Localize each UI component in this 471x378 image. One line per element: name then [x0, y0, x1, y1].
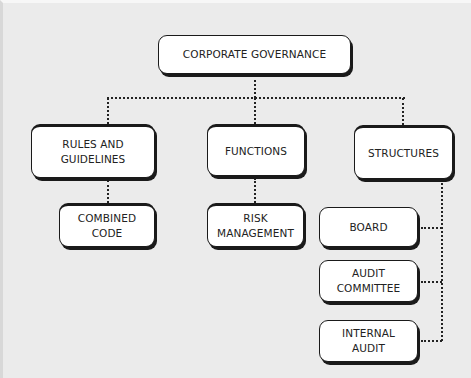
- connector-rules-to-combined-code: [107, 180, 109, 203]
- connector-root-down: [254, 75, 256, 98]
- node-rules-and-guidelines: RULES AND GUIDELINES: [31, 124, 155, 178]
- connector-horizontal-bus: [107, 97, 405, 99]
- connector-to-structures: [402, 98, 404, 125]
- connector-to-functions: [254, 98, 256, 124]
- node-internal-audit: INTERNAL AUDIT: [319, 320, 418, 362]
- node-risk-management: RISK MANAGEMENT: [207, 203, 304, 247]
- node-structures: STRUCTURES: [354, 125, 453, 179]
- node-audit-committee: AUDIT COMMITTEE: [319, 260, 418, 302]
- connector-to-rules: [107, 98, 109, 124]
- node-combined-code: COMBINED CODE: [59, 203, 155, 247]
- node-functions: FUNCTIONS: [207, 124, 305, 176]
- connector-structures-spine: [441, 183, 443, 341]
- connector-functions-to-risk: [254, 178, 256, 203]
- connector-to-internal-audit: [421, 340, 442, 342]
- node-corporate-governance: CORPORATE GOVERNANCE: [158, 35, 351, 74]
- node-board: BOARD: [319, 207, 418, 247]
- diagram-canvas: CORPORATE GOVERNANCE RULES AND GUIDELINE…: [0, 0, 471, 378]
- connector-to-board: [421, 227, 442, 229]
- connector-to-audit-committee: [421, 281, 442, 283]
